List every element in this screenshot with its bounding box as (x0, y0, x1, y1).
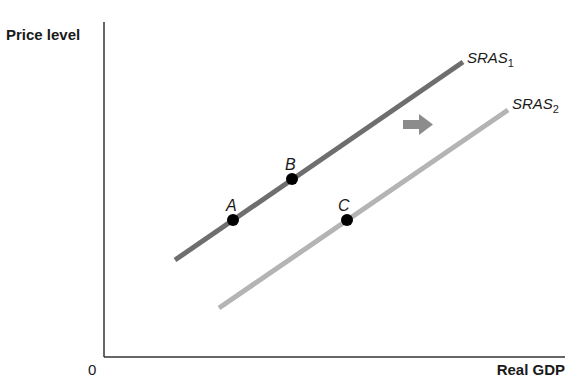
point-b (286, 173, 298, 185)
point-a (227, 214, 239, 226)
point-a-label: A (225, 197, 237, 214)
sras1-curve (175, 62, 463, 260)
sras2-label: SRAS2 (512, 95, 559, 115)
y-axis-label: Price level (6, 26, 80, 43)
origin-label: 0 (88, 361, 96, 378)
point-c (341, 214, 353, 226)
point-c-label: C (338, 197, 350, 214)
sras1-label: SRAS1 (467, 49, 514, 69)
sras2-curve (219, 110, 508, 308)
point-b-label: B (285, 156, 296, 173)
sras-shift-diagram: Price level 0 Real GDP SRAS1 SRAS2 A B C (0, 0, 577, 381)
shift-right-arrow-icon (403, 114, 433, 135)
x-axis-label: Real GDP (497, 361, 565, 378)
